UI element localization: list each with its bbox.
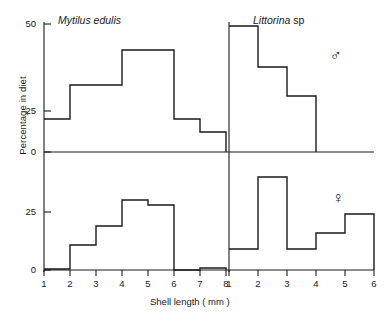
ytick-label-25-upper: 25	[14, 105, 36, 116]
xtick-label-right-1: 1	[223, 278, 235, 289]
panel-title-genus: Littorina	[253, 14, 290, 26]
xtick-label-left-6: 6	[168, 278, 180, 289]
xtick-label-right-6: 6	[368, 278, 380, 289]
xticks-left-panel	[44, 270, 226, 276]
male-symbol-icon: ♂	[330, 48, 342, 64]
histogram-bottom-right	[229, 177, 374, 270]
histogram-top-right	[229, 26, 316, 152]
female-symbol-icon: ♀	[332, 190, 344, 206]
xtick-label-right-5: 5	[339, 278, 351, 289]
histogram-top-left	[44, 50, 226, 152]
ytick-label-0-upper: 0	[14, 146, 36, 157]
panel-title-species: sp	[293, 14, 304, 26]
xtick-label-right-3: 3	[281, 278, 293, 289]
xtick-label-left-4: 4	[116, 278, 128, 289]
xtick-label-right-2: 2	[252, 278, 264, 289]
histogram-bottom-left	[44, 200, 226, 270]
panel-title-species: edulis	[94, 14, 121, 26]
ytick-label-50-upper: 50	[14, 18, 36, 29]
panel-title-littorina-sp: Littorina sp	[253, 14, 304, 26]
xtick-label-right-4: 4	[310, 278, 322, 289]
panel-title-mytilus-edulis: Mytilus edulis	[58, 14, 121, 26]
ytick-label-0-lower: 0	[14, 264, 36, 275]
xticks-right-panel	[229, 270, 374, 276]
figure-container: Percentage in diet Shell length ( mm ) 5…	[0, 0, 388, 316]
panel-title-genus: Mytilus	[58, 14, 91, 26]
ytick-label-25-lower: 25	[14, 206, 36, 217]
xtick-label-left-3: 3	[90, 278, 102, 289]
xtick-label-left-2: 2	[64, 278, 76, 289]
xtick-label-left-5: 5	[142, 278, 154, 289]
xtick-label-left-7: 7	[194, 278, 206, 289]
x-axis-label: Shell length ( mm )	[150, 296, 230, 307]
xtick-label-left-1: 1	[38, 278, 50, 289]
